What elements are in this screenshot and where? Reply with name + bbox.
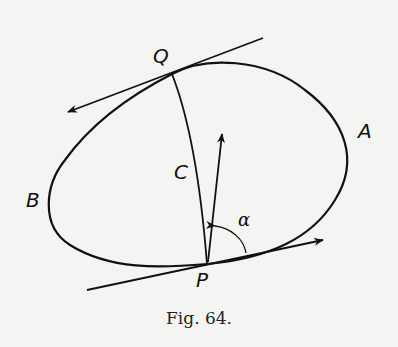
label-a: A <box>358 121 372 141</box>
label-p: P <box>196 270 208 290</box>
figure-diagram <box>0 0 398 347</box>
label-c: C <box>174 162 188 182</box>
label-b: B <box>26 190 40 210</box>
angle-arc <box>215 226 246 253</box>
vector-at-p <box>208 134 222 262</box>
oval-curve <box>49 63 347 267</box>
label-alpha: α <box>238 211 250 229</box>
figure-caption: Fig. 64. <box>0 308 398 328</box>
label-q: Q <box>153 46 169 66</box>
